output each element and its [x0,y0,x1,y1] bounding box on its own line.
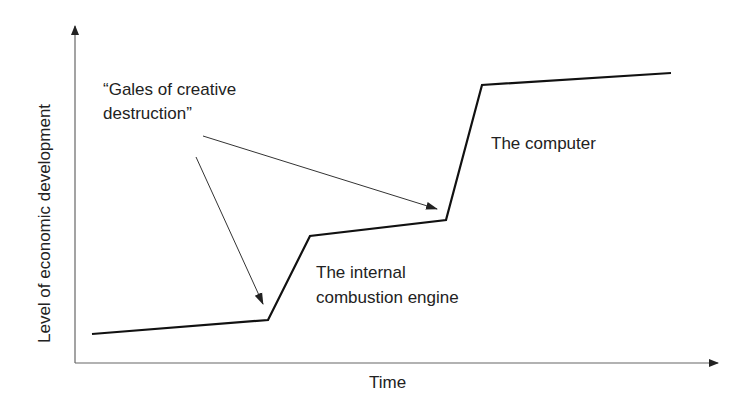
gales-label-line1: “Gales of creative [103,79,236,100]
arrow-to-second-jump [203,136,437,209]
arrow-to-first-jump [196,157,263,304]
y-axis-label: Level of economic development [35,104,55,343]
computer-label: The computer [491,133,596,154]
ice-label-line1: The internal [316,262,406,283]
gales-label-line2: destruction” [103,103,192,124]
diagram-canvas [0,0,750,407]
ice-label-line2: combustion engine [316,287,459,308]
x-axis-label: Time [369,372,406,393]
